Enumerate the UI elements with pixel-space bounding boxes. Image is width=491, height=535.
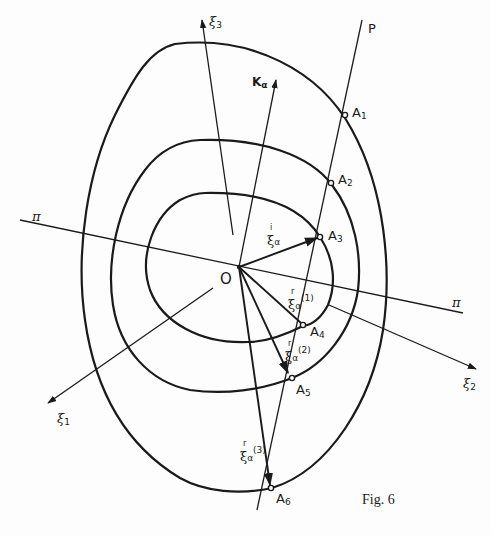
plane-pi-label-right: π: [452, 296, 461, 309]
point-A6-label: A6: [276, 492, 291, 507]
figure-caption: Fig. 6: [362, 492, 395, 508]
point-A4: [300, 322, 305, 327]
axis-xi3-label: ξ3: [209, 15, 222, 30]
axis-xi3: [202, 20, 233, 235]
point-A1-label: A1: [352, 106, 367, 121]
vector-xi-reflected-3-label: rξα(3): [240, 440, 266, 464]
point-A5: [289, 375, 294, 380]
point-A2-label: A2: [338, 173, 353, 188]
vector-xi-reflected-1-label: rξα(1): [288, 288, 314, 312]
axis-xi1: [48, 288, 213, 403]
vector-xi-incident-label: iξα: [267, 224, 280, 248]
origin-label: O: [220, 272, 232, 287]
outer-surface-curve: [82, 43, 387, 492]
point-A1: [342, 112, 347, 117]
point-A6: [268, 485, 273, 490]
vector-K-alpha-label: Kα: [252, 76, 268, 90]
point-A5-label: A5: [296, 383, 311, 398]
point-A2: [328, 180, 333, 185]
line-P-label: P: [368, 22, 376, 35]
axis-xi1-label: ξ1: [57, 412, 70, 427]
axis-xi2: [329, 305, 476, 369]
origin-point: [237, 265, 241, 269]
point-A4-label: A4: [310, 325, 325, 340]
point-A3: [317, 234, 322, 239]
plane-pi-label-left: π: [32, 210, 41, 223]
vector-xi-reflected-2-label: rξα(2): [285, 340, 311, 364]
figure-canvas: ξ3 P Kα A1 A2 A3 A4 A5 A6 O π π ξ2 ξ1 iξ…: [0, 0, 491, 535]
point-A3-label: A3: [328, 229, 343, 244]
axis-xi2-label: ξ2: [463, 377, 476, 392]
middle-surface-curve: [111, 140, 359, 392]
